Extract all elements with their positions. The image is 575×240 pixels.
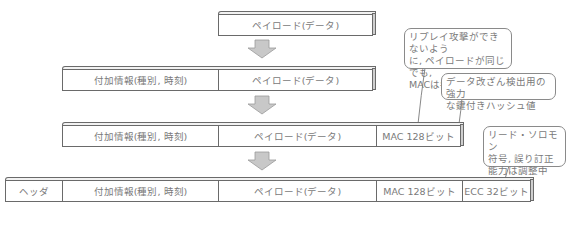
callout-line: 能力は調整中	[488, 165, 561, 177]
header-cell: ヘッダ	[5, 180, 63, 202]
metadata-cell: 付加情報(種別, 時刻)	[62, 180, 219, 202]
callout-ecc: リード・ソロモン 符号, 誤り訂正 能力は調整中	[483, 126, 566, 167]
ecc-cell: ECC 32ビット	[462, 180, 531, 202]
callout-line: リード・ソロモン	[488, 129, 561, 153]
callout-line: な鍵付きハッシュ値	[446, 100, 551, 112]
callout-line: 符号, 誤り訂正	[488, 153, 561, 165]
callout-replay: リプレイ攻撃ができないよう に, ペイロードが同じでも, MACは毎回変更する	[404, 28, 512, 69]
callout-line: データ改ざん検出用の強力	[446, 76, 551, 100]
payload-cell: ペイロード(データ)	[218, 180, 377, 202]
mac-cell: MAC 128ビット	[376, 180, 463, 202]
callout-hash: データ改ざん検出用の強力 な鍵付きハッシュ値	[441, 73, 556, 100]
callout-line: リプレイ攻撃ができないよう	[409, 31, 507, 55]
